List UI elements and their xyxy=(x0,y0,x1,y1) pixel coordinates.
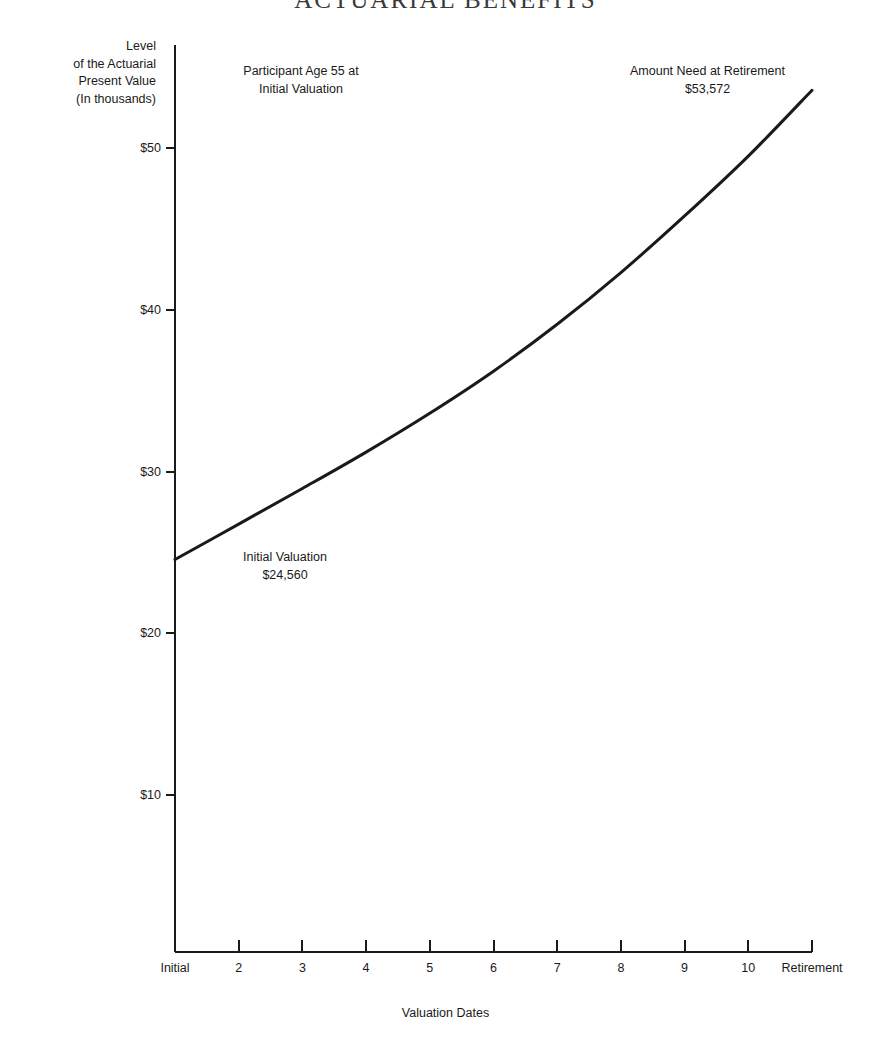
x-axis-title: Valuation Dates xyxy=(0,1006,891,1020)
x-tick-label: 3 xyxy=(299,961,306,975)
y-tick-label: $30 xyxy=(113,465,161,479)
x-tick-label: 5 xyxy=(426,961,433,975)
y-tick-label: $20 xyxy=(113,626,161,640)
x-tick-label: 8 xyxy=(617,961,624,975)
x-tick-label: 9 xyxy=(681,961,688,975)
y-tick-label: $40 xyxy=(113,303,161,317)
x-tick-label: Initial xyxy=(160,961,189,975)
x-tick-label: 10 xyxy=(741,961,755,975)
x-tick-label: 7 xyxy=(554,961,561,975)
chart-container: ACTUARIAL BENEFITS Level of the Actuaria… xyxy=(0,0,891,1049)
axes-group xyxy=(166,45,812,952)
y-tick-label: $50 xyxy=(113,141,161,155)
x-tick-label: Retirement xyxy=(781,961,842,975)
y-tick-label: $10 xyxy=(113,788,161,802)
series-line-actuarial-present-value xyxy=(175,90,812,559)
series-group xyxy=(175,90,812,559)
plot-area xyxy=(0,0,891,1049)
x-tick-label: 2 xyxy=(235,961,242,975)
x-tick-label: 6 xyxy=(490,961,497,975)
x-tick-label: 4 xyxy=(363,961,370,975)
